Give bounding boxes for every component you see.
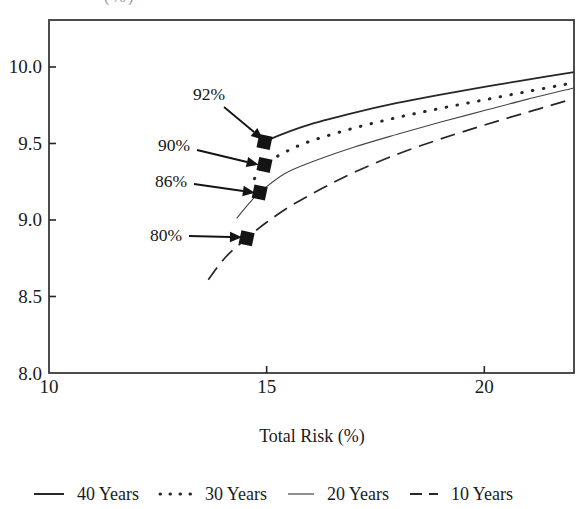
legend-item-20-years: 20 Years xyxy=(286,482,389,506)
legend-swatch-dashed-line xyxy=(408,488,440,500)
x-tick-label: 20 xyxy=(475,376,494,397)
legend-label: 10 Years xyxy=(451,484,513,505)
annotation-label-80: 80% xyxy=(150,225,182,246)
annotation-arrow-line xyxy=(224,107,254,132)
annotation-arrow-line xyxy=(194,184,243,191)
legend-item-40-years: 40 Years xyxy=(32,482,139,506)
plot-border xyxy=(49,20,574,373)
legend-label: 30 Years xyxy=(205,484,267,505)
legend-label: 40 Years xyxy=(77,484,139,505)
annotation-label-90: 90% xyxy=(158,135,190,156)
annotation-label-86: 86% xyxy=(155,171,187,192)
y-tick-label: 8.0 xyxy=(18,363,42,384)
annotation-arrowhead xyxy=(246,157,259,167)
legend-label: 20 Years xyxy=(327,484,389,505)
x-tick-label: 15 xyxy=(257,376,276,397)
legend-item-10-years: 10 Years xyxy=(408,482,513,506)
legend-swatch-thin-line xyxy=(286,488,316,500)
legend-swatch-solid-line xyxy=(32,488,66,500)
y-tick-label: 8.5 xyxy=(18,286,42,307)
series-line-30-years xyxy=(254,83,572,179)
legend: 40 Years 30 Years 20 Years 10 Years xyxy=(0,482,586,508)
series-line-20-years xyxy=(237,88,574,219)
annotation-label-92: 92% xyxy=(193,84,225,105)
y-tick-label: 9.5 xyxy=(18,133,42,154)
x-tick-label: 10 xyxy=(40,376,59,397)
annotation-arrow-line xyxy=(189,236,230,237)
x-axis-title: Total Risk (%) xyxy=(49,426,575,447)
legend-swatch-dotted-line xyxy=(158,488,194,500)
data-marker-90% xyxy=(256,157,272,173)
data-marker-80% xyxy=(239,230,255,246)
annotation-arrow-line xyxy=(197,150,247,162)
legend-item-30-years: 30 Years xyxy=(158,482,267,506)
chart-figure: (%) 1015208.08.59.09.510.0 92% 90% 86% 8… xyxy=(0,0,586,509)
y-tick-label: 9.0 xyxy=(18,209,42,230)
series-line-40-years xyxy=(264,72,574,142)
y-tick-label: 10.0 xyxy=(9,56,42,77)
